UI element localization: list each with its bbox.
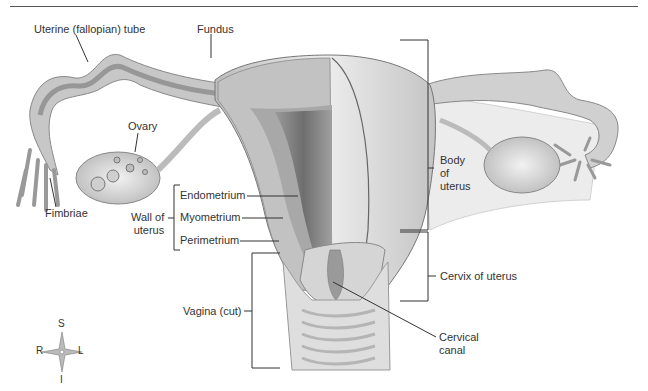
compass-right: R: [36, 345, 43, 356]
label-cervix-of-uterus: Cervix of uterus: [440, 270, 517, 283]
label-myometrium: Myometrium: [180, 211, 241, 224]
compass-left: L: [78, 345, 84, 356]
orientation-compass: S I R L: [38, 322, 88, 382]
uterus-illustration: [0, 0, 648, 391]
compass-superior: S: [58, 318, 65, 329]
label-endometrium: Endometrium: [180, 189, 245, 202]
label-fimbriae: Fimbriae: [45, 207, 88, 220]
label-vagina: Vagina (cut): [183, 305, 242, 318]
label-ovary: Ovary: [128, 120, 157, 133]
label-cervical-canal: Cervical canal: [439, 331, 479, 357]
label-fundus: Fundus: [197, 23, 234, 36]
label-body-of-uterus: Body of uterus: [440, 154, 471, 193]
label-uterine-tube: Uterine (fallopian) tube: [34, 23, 145, 36]
label-perimetrium: Perimetrium: [180, 234, 239, 247]
label-wall-of-uterus: Wall of uterus: [131, 211, 164, 237]
compass-inferior: I: [60, 374, 63, 385]
right-ovary: [484, 137, 560, 193]
